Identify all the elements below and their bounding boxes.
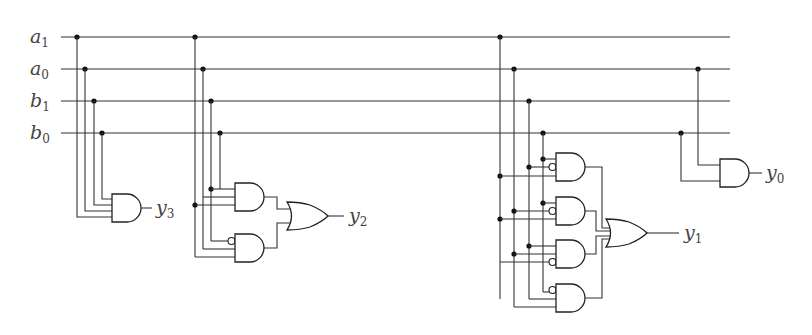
or-gate-y2 — [287, 202, 328, 230]
label-b0: b0 — [30, 121, 50, 146]
logic-circuit-diagram: a1 a0 b1 b0 y3 — [0, 0, 812, 335]
and-gate-y1-3 — [556, 240, 585, 268]
and-gate-y1-4 — [556, 284, 585, 312]
input-labels: a1 a0 b1 b0 — [30, 25, 50, 146]
and-gate-y0 — [720, 159, 749, 187]
or-gate-y1 — [606, 219, 647, 247]
and-gate-y1-2 — [556, 197, 585, 225]
label-b1: b1 — [30, 89, 50, 114]
label-y3: y3 — [155, 196, 174, 221]
and-gate-y2-lower — [235, 234, 264, 262]
and-gate-y3 — [112, 194, 141, 222]
label-a0: a0 — [30, 57, 49, 82]
and-gate-y1-1 — [556, 153, 585, 181]
label-y2: y2 — [348, 204, 367, 229]
label-y1: y1 — [683, 221, 702, 246]
and-gate-y2-upper — [235, 183, 264, 211]
label-a1: a1 — [30, 25, 49, 50]
label-y0: y0 — [765, 161, 784, 186]
y0-block: y0 — [678, 66, 784, 187]
y1-block: y1 — [497, 34, 702, 312]
input-buses — [61, 37, 730, 133]
y3-block: y3 — [74, 34, 174, 222]
circuit-svg: a1 a0 b1 b0 y3 — [0, 0, 812, 335]
